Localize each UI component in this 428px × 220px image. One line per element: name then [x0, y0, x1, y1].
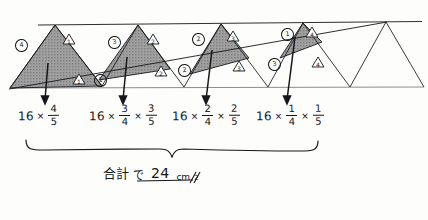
answer-underline	[137, 180, 193, 181]
answer-underline-layer	[0, 0, 428, 220]
worksheet-page: 4 1 1 1 3 2	[0, 0, 428, 220]
